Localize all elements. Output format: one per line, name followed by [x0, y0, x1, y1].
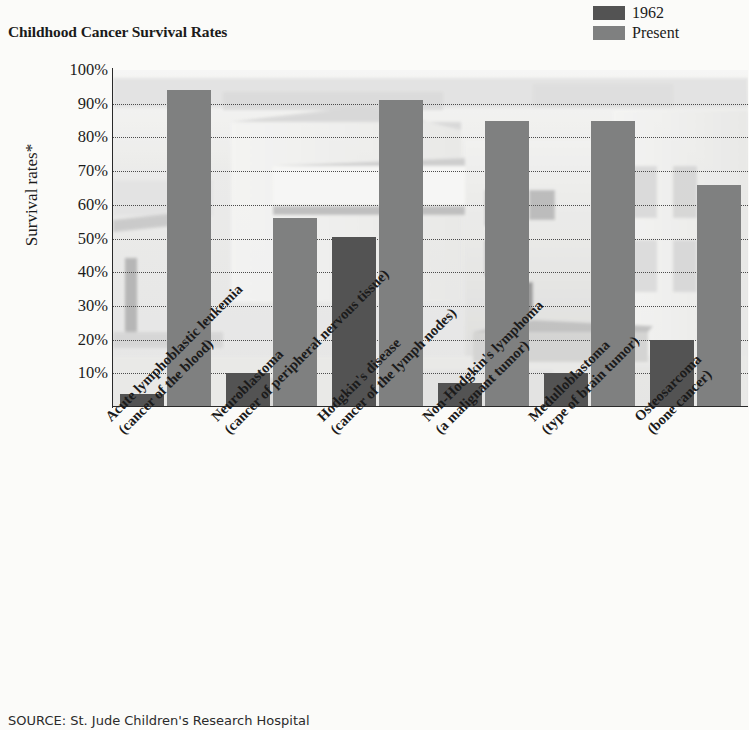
- y-axis-tick-80: 80%: [0, 127, 108, 147]
- y-axis-tick-20: 20%: [0, 330, 108, 350]
- y-axis-tick-labels: 100%90%80%70%60%50%40%30%20%10%: [0, 0, 108, 730]
- y-axis-tick-90: 90%: [0, 94, 108, 114]
- y-axis-line: [112, 68, 113, 408]
- source-note: SOURCE: St. Jude Children's Research Hos…: [8, 713, 310, 728]
- y-axis-tick-40: 40%: [0, 262, 108, 282]
- y-axis-tick-100: 100%: [0, 60, 108, 80]
- legend-item-present[interactable]: Present: [593, 23, 743, 43]
- y-axis-tick-70: 70%: [0, 161, 108, 181]
- legend: 1962 Present: [593, 3, 743, 43]
- legend-swatch-1962: [593, 6, 625, 20]
- legend-item-1962[interactable]: 1962: [593, 3, 743, 23]
- legend-swatch-present: [593, 26, 625, 40]
- y-axis-tick-60: 60%: [0, 195, 108, 215]
- chart-page: Childhood Cancer Survival Rates 1962 Pre…: [0, 0, 749, 730]
- legend-label-1962: 1962: [632, 5, 664, 21]
- y-axis-tick-10: 10%: [0, 363, 108, 383]
- y-axis-tick-30: 30%: [0, 296, 108, 316]
- legend-label-present: Present: [632, 25, 679, 41]
- y-axis-tick-50: 50%: [0, 229, 108, 249]
